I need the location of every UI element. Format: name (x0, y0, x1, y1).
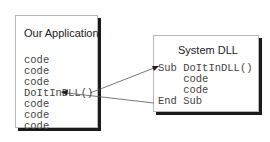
call-arrow (90, 66, 159, 93)
arrowhead-icon (152, 66, 159, 71)
arrowhead-icon (61, 90, 68, 96)
return-arrow (61, 90, 154, 104)
arrows-layer (0, 0, 270, 142)
